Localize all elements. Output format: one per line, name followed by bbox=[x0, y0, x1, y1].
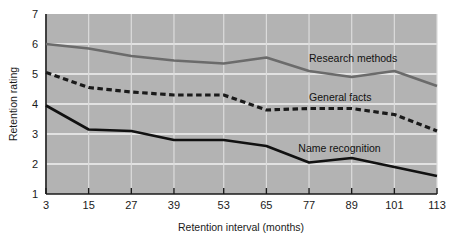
y-tick-label: 4 bbox=[32, 98, 38, 110]
x-tick-label: 89 bbox=[346, 199, 358, 211]
y-tick-label: 3 bbox=[32, 128, 38, 140]
y-tick-label: 6 bbox=[32, 38, 38, 50]
x-axis-title: Retention interval (months) bbox=[178, 221, 304, 233]
x-tick-label: 65 bbox=[260, 199, 272, 211]
x-tick-label: 77 bbox=[303, 199, 315, 211]
y-tick-label: 5 bbox=[32, 68, 38, 80]
y-tick-label: 7 bbox=[32, 8, 38, 20]
series-label-name-recognition: Name recognition bbox=[298, 142, 380, 154]
y-tick-label: 1 bbox=[32, 188, 38, 200]
retention-line-chart: 1234567 315273953657789101113 Research m… bbox=[0, 0, 455, 244]
x-tick-label: 27 bbox=[125, 199, 137, 211]
x-tick-label: 3 bbox=[43, 199, 49, 211]
x-tick-label: 15 bbox=[83, 199, 95, 211]
x-tick-label: 39 bbox=[168, 199, 180, 211]
series-label-general-facts: General facts bbox=[309, 91, 371, 103]
x-tick-label: 101 bbox=[385, 199, 403, 211]
chart-figure: 1234567 315273953657789101113 Research m… bbox=[0, 0, 455, 244]
x-tick-label: 113 bbox=[428, 199, 446, 211]
x-tick-label: 53 bbox=[218, 199, 230, 211]
series-label-research-methods: Research methods bbox=[309, 52, 397, 64]
y-axis-title: Retention rating bbox=[7, 67, 19, 141]
y-tick-label: 2 bbox=[32, 158, 38, 170]
